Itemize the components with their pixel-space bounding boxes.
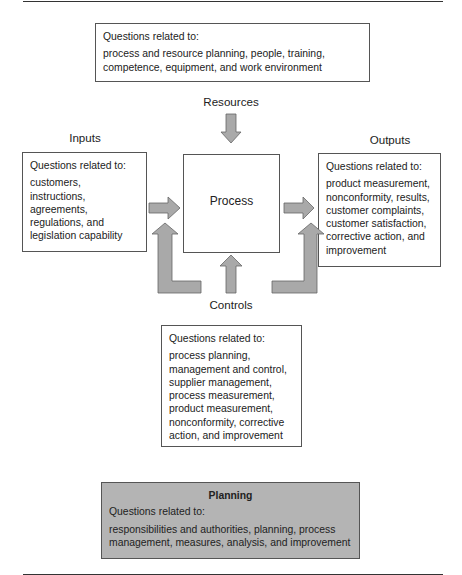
- planning-box-heading: Questions related to:: [109, 505, 352, 518]
- control-to-output-arrow-icon: [272, 223, 324, 293]
- controls-box-line: product measurement,: [169, 402, 294, 415]
- controls-box-line: process planning,: [169, 349, 294, 362]
- output-arrow-icon: [284, 197, 314, 219]
- controls-box-line: management and control,: [169, 363, 294, 376]
- controls-arrow-icon: [220, 255, 242, 293]
- controls-box-line: process measurement,: [169, 389, 294, 402]
- planning-box-line: responsibilities and authorities, planni…: [109, 523, 352, 536]
- controls-box-line: action, and improvement: [169, 429, 294, 442]
- controls-box-line: nonconformity, corrective: [169, 416, 294, 429]
- controls-box-line: supplier management,: [169, 376, 294, 389]
- controls-box-heading: Questions related to:: [169, 332, 294, 345]
- planning-title: Planning: [109, 489, 352, 502]
- input-arrow-icon: [149, 197, 180, 219]
- control-to-input-arrow-icon: [152, 223, 201, 293]
- planning-box-line: management, measures, analysis, and impr…: [109, 536, 352, 549]
- controls-box: Questions related to: process planning, …: [161, 325, 302, 447]
- controls-label: Controls: [195, 298, 267, 311]
- planning-box: Planning Questions related to: responsib…: [101, 482, 360, 559]
- resources-arrow-icon: [221, 114, 241, 143]
